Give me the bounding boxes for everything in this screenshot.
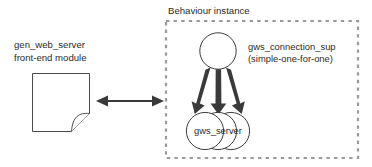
gen-web-server-label-line1: gen_web_server: [14, 39, 86, 50]
supervision-arrows: [192, 68, 245, 115]
supervision-arrow-left: [192, 68, 211, 115]
gws-connection-sup-label-line1: gws_connection_sup: [248, 41, 336, 52]
diagram-canvas: Behaviour instance gen_web_server front-…: [0, 0, 372, 167]
gen-web-server-label-line2: front-end module: [14, 52, 87, 63]
bidirectional-connector-arrow: [96, 96, 164, 107]
gws-connection-sup-label-line2: (simple-one-for-one): [248, 53, 333, 64]
gws-connection-sup-node: [200, 33, 236, 69]
gws-server-label: gws_server: [194, 125, 242, 136]
supervision-arrow-right: [226, 68, 245, 115]
supervision-arrow-middle: [211, 69, 227, 114]
behaviour-instance-title: Behaviour instance: [168, 5, 250, 16]
diagram-svg: Behaviour instance gen_web_server front-…: [0, 0, 372, 167]
document-page-icon: [33, 74, 90, 132]
